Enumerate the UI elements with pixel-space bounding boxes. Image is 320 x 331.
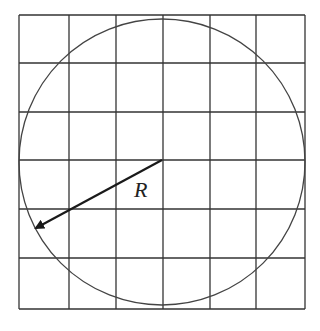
circle: [19, 19, 305, 305]
radius-label: R: [133, 177, 148, 202]
circle-grid-diagram: R: [0, 0, 320, 331]
